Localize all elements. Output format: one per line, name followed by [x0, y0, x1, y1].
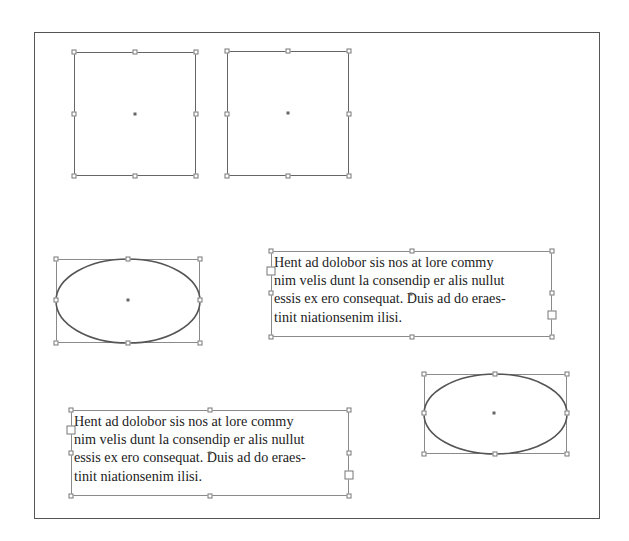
resize-handle-left[interactable] [69, 451, 74, 456]
resize-handle-bottom[interactable] [133, 174, 138, 179]
resize-handle-top[interactable] [493, 372, 498, 377]
resize-handle-right[interactable] [347, 451, 352, 456]
resize-handle-bottom[interactable] [286, 174, 291, 179]
ellipse-bounding-box-2 [424, 374, 567, 454]
resize-handle-top-right[interactable] [347, 408, 352, 413]
text-line: tinit niationsenim ilisi. [74, 467, 348, 485]
text-frame-content[interactable]: Hent ad dolobor sis nos at lore commy ni… [74, 412, 348, 485]
resize-handle-bottom[interactable] [410, 335, 415, 340]
resize-handle-bottom-right[interactable] [194, 174, 199, 179]
out-port-icon[interactable] [345, 471, 354, 480]
text-line: essis ex ero consequat. Duis ad do eraes… [274, 289, 551, 307]
center-point-icon [127, 299, 130, 302]
text-line: Hent ad dolobor sis nos at lore commy [274, 253, 551, 271]
resize-handle-bottom-right[interactable] [565, 452, 570, 457]
resize-handle-top[interactable] [286, 49, 291, 54]
resize-handle-bottom-right[interactable] [347, 494, 352, 499]
resize-handle-top[interactable] [133, 50, 138, 55]
text-line: tinit niationsenim ilisi. [274, 308, 551, 326]
resize-handle-right[interactable] [565, 411, 570, 416]
resize-handle-bottom-right[interactable] [347, 174, 352, 179]
resize-handle-top-right[interactable] [194, 50, 199, 55]
resize-handle-left[interactable] [54, 298, 59, 303]
resize-handle-bottom-left[interactable] [422, 452, 427, 457]
resize-handle-bottom[interactable] [126, 341, 131, 346]
in-port-icon[interactable] [267, 267, 276, 276]
resize-handle-top-right[interactable] [565, 372, 570, 377]
resize-handle-left[interactable] [72, 112, 77, 117]
resize-handle-bottom-left[interactable] [72, 174, 77, 179]
text-line: nim velis dunt la consendip er alis null… [274, 271, 551, 289]
center-point-icon [410, 293, 413, 296]
resize-handle-top-right[interactable] [198, 257, 203, 262]
text-line: Hent ad dolobor sis nos at lore commy [74, 412, 348, 430]
resize-handle-top-right[interactable] [347, 49, 352, 54]
center-point-icon [209, 452, 212, 455]
resize-handle-top-left[interactable] [54, 257, 59, 262]
resize-handle-left[interactable] [422, 411, 427, 416]
resize-handle-top-left[interactable] [72, 50, 77, 55]
resize-handle-bottom-left[interactable] [225, 174, 230, 179]
out-port-icon[interactable] [548, 311, 557, 320]
resize-handle-bottom-left[interactable] [69, 494, 74, 499]
resize-handle-bottom[interactable] [208, 494, 213, 499]
center-point-icon [287, 112, 290, 115]
resize-handle-right[interactable] [194, 112, 199, 117]
resize-handle-right[interactable] [347, 112, 352, 117]
resize-handle-right[interactable] [198, 298, 203, 303]
resize-handle-left[interactable] [269, 291, 274, 296]
resize-handle-top-right[interactable] [550, 249, 555, 254]
resize-handle-bottom-right[interactable] [550, 335, 555, 340]
resize-handle-top-left[interactable] [422, 372, 427, 377]
text-line: nim velis dunt la consendip er alis null… [74, 430, 348, 448]
resize-handle-top-left[interactable] [225, 49, 230, 54]
resize-handle-bottom-left[interactable] [54, 341, 59, 346]
resize-handle-bottom-right[interactable] [198, 341, 203, 346]
resize-handle-top[interactable] [208, 408, 213, 413]
resize-handle-left[interactable] [225, 112, 230, 117]
resize-handle-bottom[interactable] [493, 452, 498, 457]
resize-handle-top[interactable] [410, 249, 415, 254]
resize-handle-top-left[interactable] [269, 249, 274, 254]
center-point-icon [493, 412, 496, 415]
resize-handle-bottom-left[interactable] [269, 335, 274, 340]
text-frame-content[interactable]: Hent ad dolobor sis nos at lore commy ni… [274, 253, 551, 326]
in-port-icon[interactable] [67, 426, 76, 435]
center-point-icon [134, 113, 137, 116]
resize-handle-top-left[interactable] [69, 408, 74, 413]
resize-handle-right[interactable] [550, 291, 555, 296]
resize-handle-top[interactable] [126, 257, 131, 262]
